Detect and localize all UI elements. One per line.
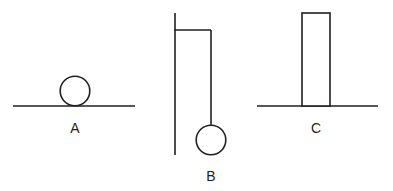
panel-label-a: A bbox=[70, 120, 80, 136]
panel-label-c: C bbox=[311, 120, 321, 136]
panel-label-b: B bbox=[206, 168, 215, 184]
panel-c: C bbox=[257, 13, 378, 136]
panel-a: A bbox=[13, 76, 135, 136]
physics-diagram: A B C bbox=[0, 0, 393, 191]
block-c bbox=[302, 13, 330, 106]
panel-b: B bbox=[174, 13, 226, 184]
ball-a bbox=[60, 76, 90, 106]
ball-b bbox=[196, 125, 226, 155]
figure-canvas: A B C bbox=[0, 0, 393, 191]
